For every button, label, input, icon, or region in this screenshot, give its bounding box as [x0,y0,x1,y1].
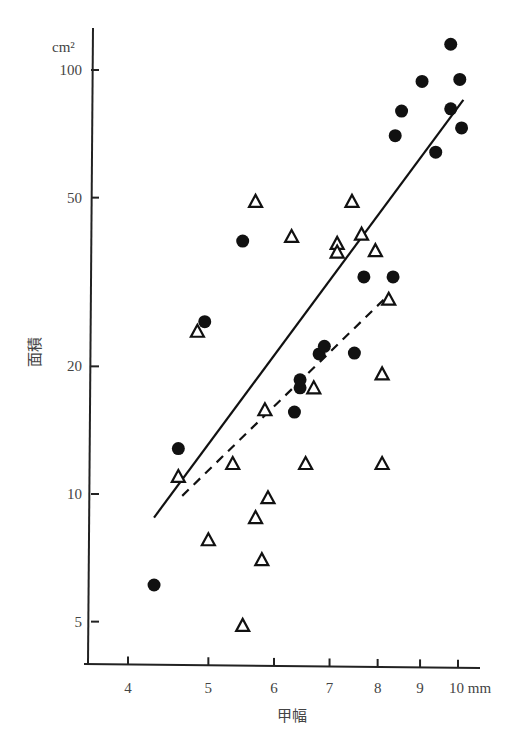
x-tick-label: 10 mm [449,680,491,696]
y-tick-label: 5 [75,614,83,630]
scatter-chart: 5102050100 45678910 mm cm² 面積 甲幅 [0,0,518,732]
filled-circle-marker [236,235,249,248]
regression-lines [154,100,463,518]
x-axis-ticks: 45678910 mm [124,656,491,696]
open-triangle-marker [261,491,274,503]
x-axis-title: 甲幅 [277,707,307,725]
y-tick-label: 100 [60,62,83,78]
open-triangle-marker [249,195,262,207]
y-tick-label: 50 [67,190,82,206]
x-tick-label: 9 [416,680,424,696]
x-tick-label: 4 [124,680,132,696]
filled-circle-marker [444,102,457,115]
open-triangle-marker [376,457,389,469]
open-triangle-marker [249,511,262,523]
y-tick-label: 10 [67,486,82,502]
filled-circle-marker [453,73,466,86]
data-markers [148,38,469,631]
filled-circle-marker [395,105,408,118]
open-triangle-marker [299,457,312,469]
filled-circle-marker [318,340,331,353]
open-triangle-marker [382,293,395,305]
open-triangle-marker [369,244,382,256]
x-tick-label: 7 [326,680,334,696]
open-triangle-marker [202,533,215,545]
open-triangle-marker [285,230,298,242]
filled-circle-marker [172,442,185,455]
open-triangle-marker [307,381,320,393]
filled-circle-marker [387,270,400,283]
y-tick-label: 20 [67,358,82,374]
solid-regression-line [154,100,463,518]
filled-circle-marker [455,121,468,134]
filled-circle-marker [429,146,442,159]
dashed-regression-line [182,295,388,496]
open-triangle-marker [255,553,268,565]
filled-circle-marker [389,129,402,142]
y-unit-label: cm² [52,39,75,55]
open-triangle-marker [345,195,358,207]
filled-circle-marker [348,347,361,360]
open-triangle-marker [258,403,271,415]
open-triangle-marker [376,367,389,379]
filled-circle-marker [288,406,301,419]
y-axis [88,28,93,664]
filled-circle-marker [198,315,211,328]
x-tick-label: 5 [205,680,213,696]
open-triangle-marker [226,457,239,469]
x-tick-label: 8 [374,680,382,696]
y-axis-ticks: 5102050100 [60,62,100,630]
open-triangle-marker [236,619,249,631]
open-triangle-marker [172,470,185,482]
filled-circle-marker [416,75,429,88]
filled-circle-marker [444,38,457,51]
filled-circle-marker [357,270,370,283]
x-tick-label: 6 [270,680,278,696]
y-axis-title: 面積 [26,337,44,367]
filled-circle-marker [294,373,307,386]
filled-circle-marker [148,579,161,592]
